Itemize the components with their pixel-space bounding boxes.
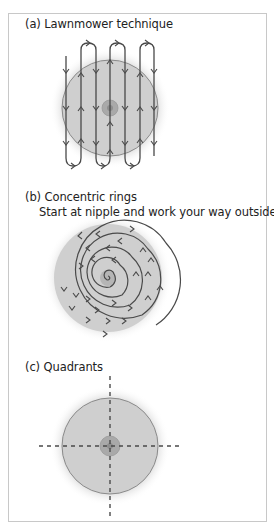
spiral-diagram: [44, 214, 180, 342]
lawnmower-diagram: [50, 40, 170, 169]
quadrants-diagram: [39, 376, 180, 516]
figure-diagrams: [0, 0, 274, 532]
